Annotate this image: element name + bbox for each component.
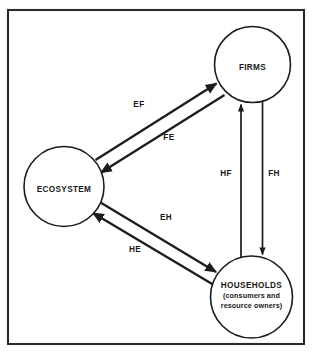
flow-label-he: HE (129, 245, 141, 254)
flow-label-fh: FH (268, 169, 280, 178)
flow-label-eh: EH (160, 213, 172, 222)
flow-arrow-eh (101, 203, 217, 273)
node-households-sublabel-1: (consumers and (223, 291, 280, 300)
flow-label-fe: FE (163, 133, 174, 142)
node-households-sublabel-2: resource owners) (221, 301, 283, 310)
node-ecosystem-label: ECOSYSTEM (37, 185, 92, 194)
circular-flow-diagram: FIRMS ECOSYSTEM HOUSEHOLDS (consumers an… (0, 0, 314, 353)
node-households-label: HOUSEHOLDS (221, 281, 282, 290)
flow-arrow-he (93, 213, 213, 285)
flow-arrow-ef (96, 84, 217, 161)
flow-label-hf: HF (220, 169, 232, 178)
node-firms-label: FIRMS (239, 63, 266, 72)
diagram-canvas: FIRMS ECOSYSTEM HOUSEHOLDS (consumers an… (0, 0, 314, 353)
flow-label-ef: EF (133, 100, 144, 109)
